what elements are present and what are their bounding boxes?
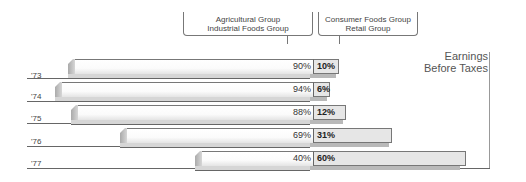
value-right: 60%: [317, 153, 335, 163]
row-baseline: [27, 101, 56, 102]
value-right: 10%: [317, 61, 335, 71]
chart-title-line1: Earnings: [424, 50, 488, 62]
value-right: 12%: [317, 107, 335, 117]
value-left: 88%: [271, 107, 311, 117]
legend-right-line2: Retail Group: [319, 24, 417, 33]
value-left: 40%: [271, 153, 311, 163]
value-right: 31%: [317, 130, 335, 140]
legend-left-tick: [287, 36, 288, 44]
year-label: '77: [31, 159, 41, 168]
chart-title-line2: Before Taxes: [424, 62, 488, 74]
year-label: '76: [31, 137, 41, 146]
value-left: 94%: [271, 84, 311, 94]
year-label: '75: [31, 114, 41, 123]
legend-left-line2: Industrial Foods Group: [184, 24, 312, 33]
value-left: 69%: [271, 130, 311, 140]
row-baseline: [27, 78, 68, 79]
legend-left-line1: Agricultural Group: [184, 15, 312, 24]
right-axis-line: [489, 52, 490, 168]
value-right: 6%: [317, 84, 330, 94]
row-baseline: [27, 146, 121, 147]
legend-left-group: Agricultural Group Industrial Foods Grou…: [183, 12, 313, 36]
row-baseline: [27, 123, 72, 124]
legend-right-line1: Consumer Foods Group: [319, 15, 417, 24]
year-label: '74: [31, 92, 41, 101]
legend-right-tick: [339, 36, 340, 44]
legend-right-group: Consumer Foods Group Retail Group: [318, 12, 418, 36]
value-left: 90%: [271, 61, 311, 71]
chart-title: Earnings Before Taxes: [424, 50, 488, 74]
